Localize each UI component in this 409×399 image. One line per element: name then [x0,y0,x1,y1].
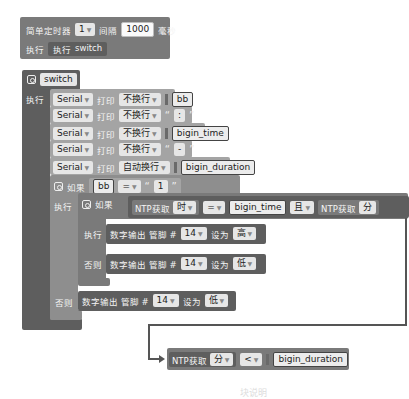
and-block-row: NTP获取 时▼ =▼ bigin_time 且▼ NTP获取 分 [132,200,379,215]
chevron-down-icon: ▼ [305,201,310,214]
close-quote-icon: ” [189,144,194,155]
call-label: 执行 [53,43,71,55]
serial-port-dropdown[interactable]: Serial▼ [53,93,93,106]
ntp-label: NTP获取 [321,202,356,214]
print-mode-dropdown[interactable]: 不换行▼ [119,143,161,156]
connector-line-vertical-right [405,218,407,325]
timer-id-dropdown[interactable]: 1▼ [75,23,95,36]
inner-if-header: 如果 [82,198,113,210]
function-header-row: switch [27,73,77,86]
chevron-down-icon: ▼ [170,294,175,307]
if-label: 如果 [67,181,85,193]
function-do-label: 执行 [26,93,44,105]
operator-dropdown[interactable]: <▼ [240,353,262,366]
chevron-down-icon: ▼ [132,180,137,193]
function-name-field[interactable]: switch [40,73,77,86]
chevron-down-icon: ▼ [84,109,89,122]
chevron-down-icon: ▼ [84,161,89,174]
chevron-down-icon: ▼ [152,143,157,156]
variable-field[interactable]: bigin_time [172,126,229,141]
inner-do-label: 执行 [84,228,102,240]
print-label: 打印 [97,94,115,106]
text-field[interactable]: - [174,143,185,156]
variable-field[interactable]: bb [172,92,193,107]
level-dropdown[interactable]: 低▼ [233,257,257,270]
serial-port-dropdown[interactable]: Serial▼ [53,161,93,174]
variable-field[interactable]: bigin_duration [273,352,348,367]
variable-field[interactable]: bigin_duration [181,160,256,175]
ntp-minute-block[interactable]: NTP获取 分▼ [169,352,236,367]
open-quote-icon: “ [145,181,150,192]
print-label: 打印 [97,128,115,140]
chevron-down-icon: ▼ [220,294,225,307]
connector-line-vertical-left [148,324,150,359]
chevron-down-icon: ▼ [254,353,259,366]
input-slot [174,162,177,173]
serial-port-dropdown[interactable]: Serial▼ [53,109,93,122]
operator-dropdown[interactable]: =▼ [118,180,140,193]
call-name: switch [75,43,102,55]
chevron-down-icon: ▼ [84,143,89,156]
inner-else-label: 否则 [84,258,102,270]
chevron-down-icon: ▼ [152,109,157,122]
ntp-label: NTP获取 [172,354,207,366]
outer-if-footer [50,310,82,320]
interval-label: 间隔 [99,24,117,36]
chevron-down-icon: ▼ [217,201,222,214]
ntp-unit-dropdown[interactable]: 时▼ [173,201,197,214]
operator-dropdown[interactable]: =▼ [203,201,225,214]
level-dropdown[interactable]: 高▼ [233,227,257,240]
print-label: 打印 [97,110,115,122]
chevron-down-icon: ▼ [84,127,89,140]
pin-dropdown[interactable]: 14▼ [181,257,207,270]
text-field[interactable]: 1 [154,180,168,193]
ntp-unit-dropdown[interactable]: 分▼ [210,353,234,366]
inner-if-footer [78,278,110,286]
serial-row-2: Serial▼ 打印 不换行▼ bigin_time [53,126,229,141]
print-mode-dropdown[interactable]: 自动换行▼ [119,161,170,174]
print-label: 打印 [97,162,115,174]
digital-write-row-high: 数字输出 管脚 # 14▼ 设为 高▼ [110,227,256,240]
variable-field[interactable]: bigin_time [229,200,286,215]
continuation-row: NTP获取 分▼ <▼ bigin_duration [169,352,348,367]
ntp-minute-block[interactable]: NTP获取 分 [318,200,379,215]
chevron-down-icon: ▼ [248,257,253,270]
set-label: 设为 [211,258,229,270]
gear-icon[interactable] [54,182,63,191]
serial-port-dropdown[interactable]: Serial▼ [53,127,93,140]
ntp-hour-block[interactable]: NTP获取 时▼ [132,200,199,215]
chevron-down-icon: ▼ [152,127,157,140]
text-field[interactable]: : [174,109,185,122]
logic-dropdown[interactable]: 且▼ [290,201,314,214]
interval-input[interactable]: 1000 [121,22,154,37]
ntp-unit-dropdown[interactable]: 分 [359,201,376,214]
arrow-right-icon [159,355,165,363]
ntp-label: NTP获取 [135,202,170,214]
serial-port-dropdown[interactable]: Serial▼ [53,143,93,156]
chevron-down-icon: ▼ [248,227,253,240]
pin-dropdown[interactable]: 14▼ [153,294,179,307]
digital-write-row-low-outer: 数字输出 管脚 # 14▼ 设为 低▼ [82,294,228,307]
pin-dropdown[interactable]: 14▼ [181,227,207,240]
print-mode-dropdown[interactable]: 不换行▼ [119,127,161,140]
input-slot [266,354,269,365]
digital-write-label: 数字输出 管脚 # [110,228,177,240]
call-switch-block[interactable]: 执行 switch [48,42,107,56]
unit-label: 毫秒 [158,24,176,36]
print-mode-dropdown[interactable]: 不换行▼ [119,109,161,122]
gear-icon[interactable] [82,200,91,209]
timer-do-label: 执行 [26,43,44,55]
chevron-down-icon: ▼ [87,23,92,36]
close-quote-icon: ” [172,181,177,192]
timer-header-row: 简单定时器 1▼ 间隔 1000 毫秒 [26,22,176,37]
chevron-down-icon: ▼ [161,161,166,174]
print-mode-dropdown[interactable]: 不换行▼ [119,93,161,106]
variable-field[interactable]: bb [93,179,114,194]
level-dropdown[interactable]: 低▼ [205,294,229,307]
figure-caption: 块说明 [240,386,267,399]
chevron-down-icon: ▼ [84,93,89,106]
outer-do-label: 执行 [54,200,72,212]
timer-do-row: 执行 执行 switch [26,42,107,56]
open-quote-icon: “ [165,110,170,121]
gear-icon[interactable] [27,75,36,84]
